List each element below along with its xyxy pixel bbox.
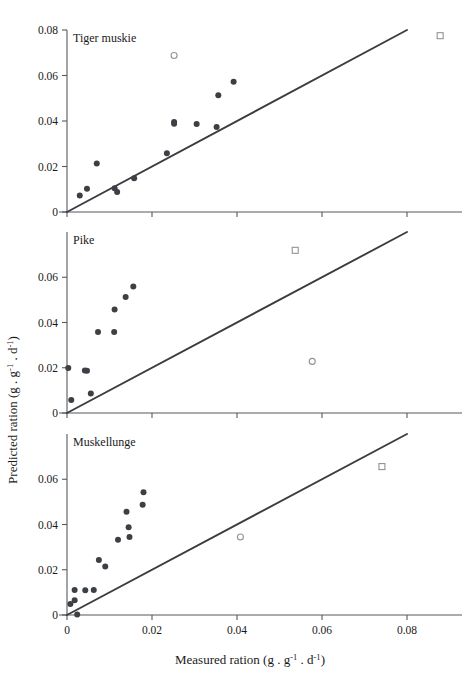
data-point-2-1-0 (309, 358, 315, 364)
data-point-1-0-4 (114, 189, 120, 195)
panel-muskellunge: 00.020.040.060.0800.020.040.06Muskellung… (38, 434, 462, 636)
y-tick-label-1-1: 0.02 (38, 161, 58, 173)
data-point-3-0-2 (74, 612, 80, 618)
data-point-3-0-9 (124, 509, 130, 515)
panel-tiger-muskie: 00.020.040.060.08Tiger muskie (38, 24, 462, 218)
data-point-3-1-0 (237, 534, 243, 540)
one-to-one-line-2 (67, 232, 407, 413)
y-tick-label-2-1: 0.02 (38, 362, 58, 374)
data-point-2-0-0 (65, 365, 71, 371)
data-point-3-0-6 (96, 557, 102, 563)
y-axis-title: Predicted ration (g . g-1 . d-1) (5, 336, 20, 484)
y-tick-label-1-3: 0.06 (38, 70, 58, 82)
data-point-2-2-0 (292, 247, 298, 253)
y-tick-label-1-0: 0 (52, 206, 58, 218)
data-point-2-0-3 (84, 368, 90, 374)
data-point-3-0-8 (115, 537, 121, 543)
panel-label-3: Muskellunge (73, 435, 136, 449)
x-tick-label-1: 0.02 (142, 624, 162, 636)
x-tick-label-2: 0.04 (227, 624, 247, 636)
y-tick-label-1-2: 0.04 (38, 115, 58, 127)
data-point-1-0-2 (94, 161, 100, 167)
y-tick-label-3-0: 0 (52, 609, 58, 621)
data-point-3-0-1 (72, 597, 78, 603)
data-point-1-0-0 (77, 192, 83, 198)
x-tick-label-3: 0.06 (312, 624, 332, 636)
data-point-1-1-0 (171, 52, 177, 58)
panels-group: 00.020.040.060.08Tiger muskie00.020.040.… (38, 24, 462, 636)
y-tick-label-3-3: 0.06 (38, 473, 58, 485)
data-point-1-0-10 (214, 124, 220, 130)
data-point-2-0-5 (95, 329, 101, 335)
y-tick-label-2-2: 0.04 (38, 317, 58, 329)
figure-container: 00.020.040.060.08Tiger muskie00.020.040.… (0, 0, 470, 685)
x-tick-label-4: 0.08 (397, 624, 417, 636)
data-point-1-2-0 (437, 33, 443, 39)
data-point-1-0-6 (164, 150, 170, 156)
data-point-2-0-7 (111, 329, 117, 335)
data-point-3-0-3 (72, 587, 78, 593)
data-point-2-0-1 (68, 397, 74, 403)
y-tick-label-2-0: 0 (52, 407, 58, 419)
data-point-1-0-11 (215, 92, 221, 98)
data-point-3-0-11 (126, 534, 132, 540)
data-point-3-0-12 (140, 502, 146, 508)
one-to-one-line-3 (67, 434, 407, 615)
data-point-3-0-10 (126, 524, 132, 530)
data-point-2-0-6 (112, 307, 118, 313)
data-point-3-2-0 (379, 464, 385, 470)
data-point-2-0-4 (88, 391, 94, 397)
data-point-2-0-9 (130, 284, 136, 290)
data-point-1-0-1 (84, 186, 90, 192)
data-point-1-0-8 (171, 121, 177, 127)
data-point-3-0-4 (82, 587, 88, 593)
data-point-2-0-8 (123, 294, 129, 300)
data-point-3-0-5 (91, 587, 97, 593)
y-tick-label-3-2: 0.04 (38, 519, 58, 531)
y-tick-label-3-1: 0.02 (38, 564, 58, 576)
data-point-3-0-7 (102, 564, 108, 570)
y-tick-label-1-4: 0.08 (38, 24, 58, 36)
panel-label-1: Tiger muskie (73, 31, 136, 45)
x-axis-title: Measured ration (g . g-1 . d-1) (175, 652, 325, 667)
data-point-1-0-12 (231, 79, 237, 85)
y-tick-label-2-3: 0.06 (38, 271, 58, 283)
data-point-3-0-13 (141, 489, 147, 495)
panel-pike: 00.020.040.06Pike (38, 232, 462, 419)
data-point-1-0-9 (194, 121, 200, 127)
panel-label-2: Pike (73, 233, 94, 247)
three-panel-scatter-chart: 00.020.040.060.08Tiger muskie00.020.040.… (0, 0, 470, 685)
data-point-1-0-5 (131, 175, 137, 181)
x-tick-label-0: 0 (64, 624, 70, 636)
one-to-one-line-1 (67, 30, 407, 212)
